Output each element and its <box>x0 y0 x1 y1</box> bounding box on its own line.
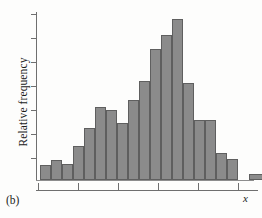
y-axis-tick-1 <box>31 14 36 15</box>
y-axis-tick-6 <box>31 134 36 135</box>
y-axis-tick-7 <box>31 158 36 159</box>
baseline-rule <box>36 180 254 181</box>
y-axis-tick-4 <box>31 86 36 87</box>
bin-3 <box>62 164 73 180</box>
x-axis-spine <box>36 190 258 191</box>
y-axis-label: Relative frequency <box>17 27 29 177</box>
bin-9 <box>128 100 139 180</box>
bin-7 <box>106 110 117 180</box>
bin-14 <box>183 83 194 180</box>
bin-18 <box>227 159 238 180</box>
x-axis-tick-4 <box>158 183 159 190</box>
y-axis-tick-3 <box>31 62 36 63</box>
bin-16 <box>205 120 216 180</box>
y-axis-spine <box>36 12 37 180</box>
bin-12 <box>161 35 172 180</box>
x-axis-tick-3 <box>118 183 119 190</box>
bin-2 <box>51 160 62 180</box>
x-axis-tick-6 <box>238 183 239 190</box>
panel-caption: (b) <box>6 194 19 206</box>
y-axis-tick-5 <box>31 110 36 111</box>
bin-13 <box>172 19 183 180</box>
plot-area <box>36 10 258 188</box>
x-axis-tick-5 <box>198 183 199 190</box>
bin-8 <box>117 123 128 180</box>
bin-4 <box>73 146 84 180</box>
bin-outlier <box>249 174 262 180</box>
x-axis-tick-2 <box>78 183 79 190</box>
bin-10 <box>139 81 150 180</box>
bin-6 <box>95 107 106 180</box>
x-axis-tick-1 <box>38 183 39 190</box>
bin-15 <box>194 120 205 180</box>
histogram-figure: Relative frequency (b) x <box>0 0 262 218</box>
y-axis-tick-2 <box>31 38 36 39</box>
bin-1 <box>40 165 51 180</box>
bin-11 <box>150 49 161 180</box>
x-axis-variable-label: x <box>243 192 248 204</box>
bin-17 <box>216 153 227 180</box>
bin-5 <box>84 128 95 180</box>
